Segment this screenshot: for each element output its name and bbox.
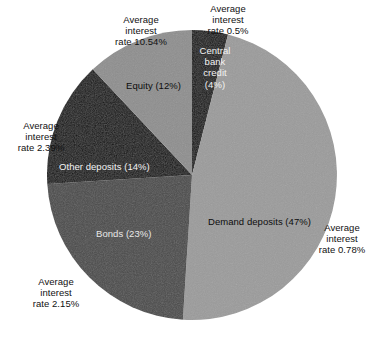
slice-label-equity: Equity (12%) [126,80,216,91]
slice-label-other-deposits: Other deposits (14%) [59,161,189,172]
annotation-central-bank-credit-rate: Average interest rate 0.5% [185,3,271,37]
annotation-bonds-rate: Average interest rate 2.15% [14,276,98,310]
annotation-equity-rate: Average interest rate 10.54% [93,14,189,48]
pie-chart-figure: Average interest rate 0.5% Average inter… [0,0,381,338]
slice-label-bonds: Bonds (23%) [96,228,186,239]
annotation-other-deposits-rate: Average interest rate 2.39% [2,120,80,154]
slice-label-demand-deposits: Demand deposits (47%) [208,216,348,227]
